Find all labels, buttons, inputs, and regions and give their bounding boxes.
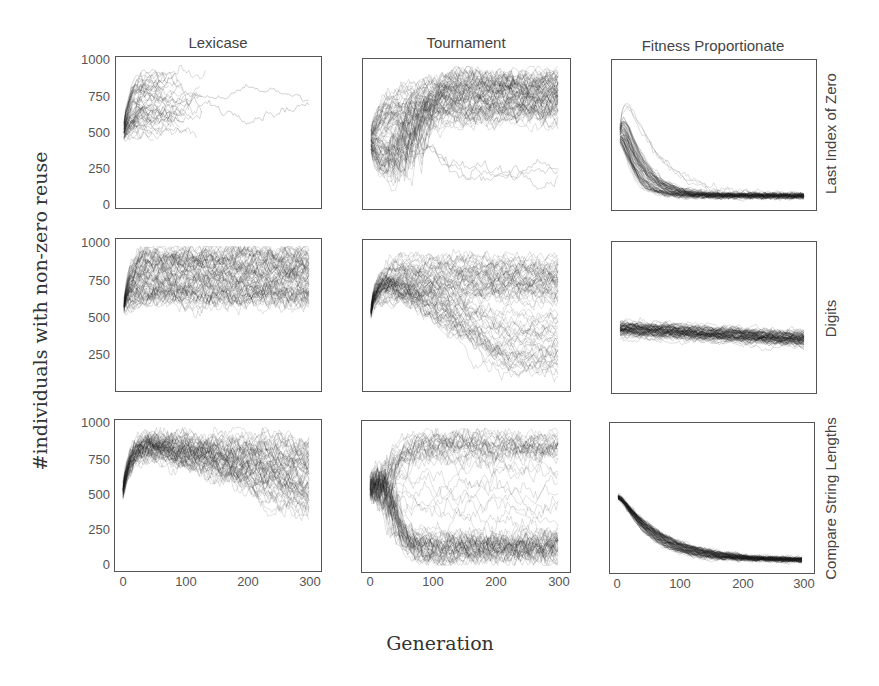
y-axis-label: #individuals with non-zero reuse [29, 131, 51, 491]
panel-fitness-proportionate-digits [611, 241, 817, 394]
panel-lexicase-last-index-of-zero [115, 56, 322, 209]
ytick: 0 [70, 197, 110, 212]
ytick: 1000 [70, 415, 110, 430]
ytick: 750 [70, 273, 110, 288]
column-title-tournament: Tournament [366, 34, 566, 51]
run-traces [115, 420, 321, 571]
ytick: 750 [70, 89, 110, 104]
run-traces [612, 60, 816, 210]
xtick: 100 [413, 574, 453, 589]
xtick: 200 [476, 574, 516, 589]
run-traces [362, 421, 570, 572]
x-axis-label: Generation [340, 632, 540, 654]
xtick: 100 [660, 576, 700, 591]
ytick: 750 [70, 452, 110, 467]
run-traces [610, 423, 814, 573]
row-title-digits: Digits [822, 249, 839, 389]
xtick: 0 [597, 576, 637, 591]
xtick: 300 [290, 574, 330, 589]
column-title-lexicase: Lexicase [118, 34, 318, 51]
ytick: 250 [70, 347, 110, 362]
panel-tournament-digits [362, 239, 571, 392]
xtick: 200 [723, 576, 763, 591]
ytick: 1000 [70, 235, 110, 250]
row-title-compare-string-lengths: Compare String Lengths [822, 409, 839, 589]
panel-fitness-proportionate-last-index-of-zero [611, 59, 817, 211]
panel-lexicase-compare-string-lengths [114, 419, 322, 572]
ytick: 0 [70, 557, 110, 572]
run-traces [363, 240, 570, 391]
figure: #individuals with non-zero reuse Generat… [0, 0, 879, 686]
ytick: 250 [70, 161, 110, 176]
xtick: 300 [539, 574, 579, 589]
ytick: 500 [70, 125, 110, 140]
ytick: 500 [70, 310, 110, 325]
xtick: 0 [103, 574, 143, 589]
ytick: 500 [70, 487, 110, 502]
panel-tournament-compare-string-lengths [361, 420, 571, 573]
run-traces [116, 57, 321, 208]
ytick: 1000 [70, 52, 110, 67]
row-title-last-index-of-zero: Last Index of Zero [822, 64, 839, 204]
xtick: 0 [350, 574, 390, 589]
run-traces [116, 239, 321, 391]
panel-lexicase-digits [115, 238, 322, 392]
panel-fitness-proportionate-compare-string-lengths [609, 422, 815, 574]
xtick: 300 [784, 576, 824, 591]
xtick: 100 [166, 574, 206, 589]
column-title-fitness-proportionate: Fitness Proportionate [613, 37, 813, 54]
run-traces [612, 242, 816, 393]
ytick: 250 [70, 522, 110, 537]
run-traces [363, 59, 570, 209]
panel-tournament-last-index-of-zero [362, 58, 571, 210]
xtick: 200 [228, 574, 268, 589]
